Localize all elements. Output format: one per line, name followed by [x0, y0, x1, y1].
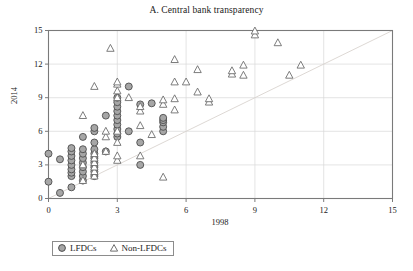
- data-point-non-lfdc: [194, 88, 201, 95]
- data-point-non-lfdc: [107, 44, 114, 51]
- data-points: [45, 27, 304, 196]
- data-point-lfdc: [125, 83, 132, 90]
- data-point-non-lfdc: [114, 87, 121, 94]
- data-point-non-lfdc: [182, 78, 189, 85]
- data-point-non-lfdc: [114, 152, 121, 159]
- chart-legend: LFDCs Non-LFDCs: [52, 241, 174, 256]
- data-point-lfdc: [45, 178, 52, 185]
- data-point-non-lfdc: [205, 95, 212, 102]
- data-point-lfdc: [137, 139, 144, 146]
- data-point-non-lfdc: [159, 96, 166, 103]
- data-point-non-lfdc: [228, 67, 235, 74]
- data-point-non-lfdc: [171, 106, 178, 113]
- legend-circle-marker-icon: [57, 243, 67, 253]
- data-point-lfdc: [102, 112, 109, 119]
- y-tick-label: 15: [0, 25, 43, 35]
- data-point-non-lfdc: [286, 71, 293, 78]
- data-point-lfdc: [56, 189, 63, 196]
- data-point-non-lfdc: [102, 127, 109, 134]
- y-tick-label: 9: [0, 92, 43, 102]
- data-point-non-lfdc: [297, 61, 304, 68]
- x-tick-label: 12: [304, 205, 344, 215]
- data-point-non-lfdc: [274, 39, 281, 46]
- data-point-lfdc: [125, 128, 132, 135]
- y-tick-label: 3: [0, 159, 43, 169]
- reference-line-45deg: [49, 31, 393, 199]
- y-tick-label: 12: [0, 59, 43, 69]
- data-point-lfdc: [79, 133, 86, 140]
- y-tick-label: 6: [0, 126, 43, 136]
- data-point-lfdc: [148, 100, 155, 107]
- data-point-lfdc: [56, 156, 63, 163]
- legend-label-lfdcs: LFDCs: [70, 244, 97, 253]
- data-point-non-lfdc: [171, 56, 178, 63]
- x-axis-label: 1998: [0, 217, 413, 227]
- x-tick-label: 3: [97, 205, 137, 215]
- data-point-non-lfdc: [194, 66, 201, 73]
- x-tick-label: 0: [29, 205, 69, 215]
- x-tick-label: 9: [235, 205, 275, 215]
- data-point-lfdc: [79, 146, 86, 153]
- data-point-lfdc: [160, 114, 167, 121]
- data-point-non-lfdc: [114, 78, 121, 85]
- data-point-non-lfdc: [79, 112, 86, 119]
- data-point-non-lfdc: [91, 83, 98, 90]
- data-point-lfdc: [68, 184, 75, 191]
- chart-figure: A. Central bank transparency 2014 1998 L…: [0, 0, 413, 271]
- data-point-non-lfdc: [171, 78, 178, 85]
- data-point-lfdc: [137, 161, 144, 168]
- data-point-non-lfdc: [159, 173, 166, 180]
- legend-triangle-marker-icon: [109, 243, 119, 253]
- data-point-lfdc: [91, 139, 98, 146]
- legend-label-non-lfdcs: Non-LFDCs: [122, 244, 167, 253]
- legend-item-lfdcs: LFDCs: [57, 243, 97, 253]
- data-point-non-lfdc: [240, 71, 247, 78]
- data-point-non-lfdc: [171, 95, 178, 102]
- y-tick-label: 0: [0, 193, 43, 203]
- scatter-plot-canvas: [0, 0, 413, 271]
- data-point-non-lfdc: [148, 131, 155, 138]
- data-point-non-lfdc: [125, 94, 132, 101]
- x-tick-label: 15: [373, 205, 413, 215]
- x-tick-label: 6: [166, 205, 206, 215]
- data-point-non-lfdc: [137, 122, 144, 129]
- data-point-lfdc: [68, 145, 75, 152]
- data-point-non-lfdc: [240, 61, 247, 68]
- data-point-lfdc: [45, 150, 52, 157]
- data-point-lfdc: [91, 124, 98, 131]
- legend-item-non-lfdcs: Non-LFDCs: [109, 243, 167, 253]
